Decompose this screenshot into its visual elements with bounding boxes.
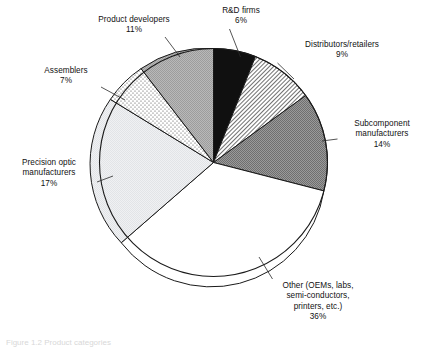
pie-label-assemblers-value: 7%	[18, 76, 114, 86]
pie-label-distributors-value: 9%	[278, 50, 406, 60]
figure-caption: Figure 1.2 Product categories	[6, 338, 246, 347]
pie-label-other-line2: semi-conductors,	[264, 291, 372, 301]
pie-label-other-line3: printers, etc.)	[264, 302, 372, 312]
pie-label-assemblers-name: Assemblers	[18, 66, 114, 76]
pie-label-other: Other (OEMs, labs, semi-conductors, prin…	[264, 281, 372, 323]
pie-label-other-value: 36%	[264, 312, 372, 322]
pie-label-precision-optic-manufacturers: Precision optic manufacturers 17%	[2, 158, 96, 189]
pie-label-rd-firms: R&D firms 6%	[196, 6, 286, 27]
pie-label-precision-optic-value: 17%	[2, 179, 96, 189]
pie-label-product-developers-name: Product developers	[74, 15, 194, 25]
pie-label-assemblers: Assemblers 7%	[18, 66, 114, 87]
pie-label-rd-firms-value: 6%	[196, 16, 286, 26]
pie-chart-figure: R&D firms 6% Product developers 11% Asse…	[0, 0, 423, 347]
pie-label-subcomponent-manufacturers: Subcomponent manufacturers 14%	[341, 119, 423, 150]
pie-label-precision-optic-line2: manufacturers	[2, 168, 96, 178]
pie-label-subcomponent-line1: Subcomponent	[341, 119, 423, 129]
pie-label-rd-firms-name: R&D firms	[196, 6, 286, 16]
pie-label-product-developers-value: 11%	[74, 25, 194, 35]
pie-label-product-developers: Product developers 11%	[74, 15, 194, 36]
pie-label-subcomponent-value: 14%	[341, 140, 423, 150]
pie-label-other-line1: Other (OEMs, labs,	[264, 281, 372, 291]
pie-label-precision-optic-line1: Precision optic	[2, 158, 96, 168]
pie-label-subcomponent-line2: manufacturers	[341, 129, 423, 139]
pie-label-distributors-name: Distributors/retailers	[278, 40, 406, 50]
pie-label-distributors-retailers: Distributors/retailers 9%	[278, 40, 406, 61]
